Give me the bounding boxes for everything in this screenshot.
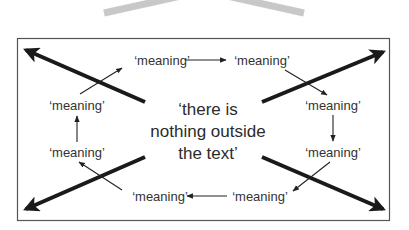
arrow-bottom-right-diag [293,162,330,191]
center-quote-line-1: ‘there is [133,99,283,121]
center-quote-line-3: the text’ [133,143,283,165]
node-meaning-top-right: ‘meaning’ [234,54,290,67]
grey-chevron [104,0,304,13]
thick-arrow-bottom-left [26,157,145,209]
node-meaning-right-upper: ‘meaning’ [305,99,361,112]
node-meaning-top-left: ‘meaning’ [134,54,190,67]
node-meaning-left-lower: ‘meaning’ [49,146,105,159]
center-quote: ‘there is nothing outside the text’ [133,99,283,165]
node-meaning-bottom-left: ‘meaning’ [132,190,188,203]
node-meaning-right-lower: ‘meaning’ [305,146,361,159]
center-quote-line-2: nothing outside [133,121,283,143]
arrow-bottom-left-diag [79,162,122,190]
node-meaning-left-upper: ‘meaning’ [49,99,105,112]
thick-arrow-top-left [26,50,145,102]
node-meaning-bottom-right: ‘meaning’ [232,190,288,203]
